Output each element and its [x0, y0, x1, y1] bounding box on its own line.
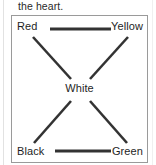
node-label-white: White — [65, 82, 94, 95]
page-edge-left-rule — [3, 0, 4, 165]
diagram-container: Red Yellow White Black Green — [11, 15, 148, 163]
connector-green-white — [90, 101, 127, 143]
page-canvas: the heart. Red Yellow White Black Green — [0, 0, 156, 165]
page-edge-right-rule — [152, 0, 153, 165]
node-label-red: Red — [17, 20, 37, 33]
caption-text: the heart. — [18, 0, 63, 13]
connector-yellow-white — [90, 37, 128, 79]
node-label-black: Black — [17, 145, 44, 158]
node-label-green: Green — [112, 145, 143, 158]
connector-red-white — [33, 37, 71, 79]
connector-black-white — [34, 101, 71, 143]
node-label-yellow: Yellow — [111, 20, 143, 33]
